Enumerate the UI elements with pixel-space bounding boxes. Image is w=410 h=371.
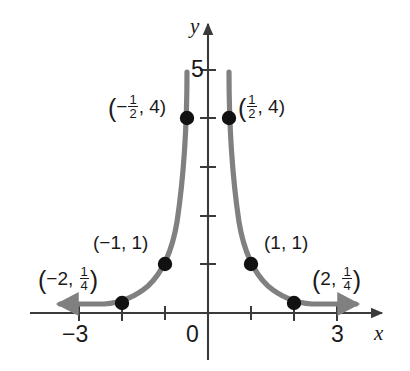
point-label-neg-half-4: (−12, 4) xyxy=(108,94,166,121)
x-tick-label-0: 0 xyxy=(186,323,199,346)
fraction-numerator: 1 xyxy=(342,265,351,278)
x-tick-label-3: 3 xyxy=(331,323,344,346)
point-label-pos-half-4: (12, 4) xyxy=(238,94,285,121)
minus-sign: − xyxy=(116,96,127,117)
fraction-numerator: 1 xyxy=(80,265,89,278)
point-pos-half-4 xyxy=(222,111,236,125)
point-pos-1-1 xyxy=(244,257,258,271)
fraction-one-quarter: 14 xyxy=(80,265,89,292)
label-head: 2, xyxy=(320,268,341,289)
fraction-numerator: 1 xyxy=(247,93,256,106)
label-head: −2, xyxy=(46,268,78,289)
fraction-denominator: 2 xyxy=(128,106,137,120)
point-label-pos-1-1: (1, 1) xyxy=(264,233,308,252)
fraction-denominator: 4 xyxy=(342,278,351,292)
paren-close: ) xyxy=(90,266,98,294)
paren-close: ) xyxy=(353,266,361,294)
x-axis-label: x xyxy=(374,323,383,344)
point-label-pos-2-quarter: (2, 14) xyxy=(312,266,361,293)
fraction-one-half: 12 xyxy=(128,93,137,120)
label-tail: , 4) xyxy=(139,96,166,117)
y-tick-label-5: 5 xyxy=(191,58,204,81)
graph-figure: (−12, 4) (12, 4) (−1, 1) (1, 1) (−2, 14)… xyxy=(0,0,410,371)
point-neg-half-4 xyxy=(180,111,194,125)
point-neg-2-quarter xyxy=(115,296,129,310)
point-label-neg-2-quarter: (−2, 14) xyxy=(38,266,98,293)
graph-canvas xyxy=(0,0,410,371)
fraction-one-half: 12 xyxy=(247,93,256,120)
paren-open: ( xyxy=(108,94,116,122)
point-neg-1-1 xyxy=(158,257,172,271)
paren-open: ( xyxy=(312,266,320,294)
paren-open: ( xyxy=(238,94,246,122)
fraction-denominator: 4 xyxy=(80,278,89,292)
fraction-denominator: 2 xyxy=(247,106,256,120)
x-tick-label--3: −3 xyxy=(62,323,88,346)
fraction-numerator: 1 xyxy=(128,93,137,106)
fraction-one-quarter: 14 xyxy=(342,265,351,292)
label-tail: , 4) xyxy=(258,96,285,117)
point-pos-2-quarter xyxy=(287,296,301,310)
point-label-neg-1-1: (−1, 1) xyxy=(93,233,148,252)
y-axis-label: y xyxy=(190,16,199,37)
paren-open: ( xyxy=(38,266,46,294)
axis-lines xyxy=(30,24,382,360)
